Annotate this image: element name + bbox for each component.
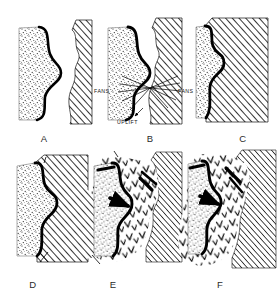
figure-canvas: A FANS FANS UPLIFT B — [0, 0, 278, 305]
panel-label-B: B — [147, 133, 154, 144]
panel-label-D: D — [29, 279, 36, 290]
panel-label-E: E — [110, 279, 117, 290]
geologic-cross-section-figure: A FANS FANS UPLIFT B — [0, 0, 278, 305]
panel-label-C: C — [239, 133, 246, 144]
panel-label-F: F — [217, 279, 223, 290]
panel-label-A: A — [41, 133, 48, 144]
uplift-label: UPLIFT — [117, 119, 138, 125]
fans-label-left: FANS — [94, 88, 110, 94]
fans-label-right: FANS — [178, 88, 194, 94]
